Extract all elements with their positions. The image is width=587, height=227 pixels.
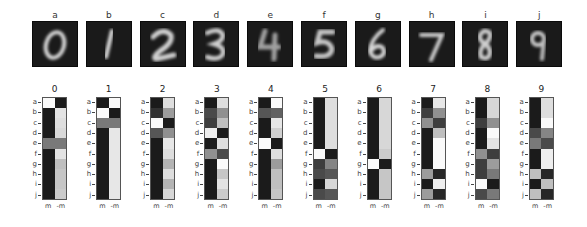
row-tick-label: a <box>404 97 420 107</box>
heatmap-cell <box>325 118 337 128</box>
heatmap-cell <box>379 128 391 138</box>
heatmap-cell <box>314 138 326 148</box>
row-tick-label: h <box>133 169 149 179</box>
row-tick-label: c <box>133 118 149 128</box>
heatmap-cell <box>368 169 380 179</box>
row-tick-label: c <box>187 118 203 128</box>
matrix-title: 5 <box>313 84 338 95</box>
heatmap-cell <box>271 128 283 138</box>
heatmap-cell <box>541 179 553 189</box>
heatmap-cell <box>205 149 217 159</box>
heatmap-cell <box>43 179 55 189</box>
row-tick-label: d <box>25 128 41 138</box>
heatmap-cell <box>55 169 67 179</box>
heatmap-cell <box>205 169 217 179</box>
heatmap-cell <box>97 128 109 138</box>
heatmap-cell <box>379 138 391 148</box>
heatmap-matrix <box>204 97 229 200</box>
heatmap-matrix <box>475 97 500 200</box>
digit-panel-h: h <box>409 10 455 67</box>
digit-panel-b: b <box>86 10 132 67</box>
heatmap-cell <box>325 138 337 148</box>
row-tick-label: h <box>404 169 420 179</box>
heatmap-cell <box>325 179 337 189</box>
column-axis-labels: m-m <box>475 202 500 210</box>
heatmap-cell <box>151 98 163 108</box>
heatmap-cell <box>109 128 121 138</box>
heatmap-cell <box>476 98 488 108</box>
heatmap-cell <box>163 169 175 179</box>
row-tick-label: a <box>187 97 203 107</box>
row-tick-label: i <box>241 179 257 189</box>
heatmap-cell <box>433 189 445 199</box>
row-tick-label: d <box>512 128 528 138</box>
digit-panel-i: i <box>462 10 508 67</box>
row-tick-label: b <box>25 107 41 117</box>
heatmap-cell <box>55 149 67 159</box>
column-axis-labels: m-m <box>313 202 338 210</box>
row-tick-label: c <box>79 118 95 128</box>
row-tick-label: c <box>25 118 41 128</box>
digit-image-9 <box>516 21 562 67</box>
heatmap-cell <box>422 179 434 189</box>
heatmap-cell <box>259 159 271 169</box>
heatmap-cell <box>379 189 391 199</box>
heatmap-cell <box>109 179 121 189</box>
heatmap-cell <box>487 169 499 179</box>
digit-panel-c: c <box>140 10 186 67</box>
heatmap-cell <box>43 149 55 159</box>
digit-panel-label: b <box>86 10 132 21</box>
heatmap-cell <box>97 118 109 128</box>
row-tick-label: e <box>512 138 528 148</box>
row-tick-label: g <box>187 159 203 169</box>
row-tick-label: f <box>296 149 312 159</box>
row-tick-label: c <box>458 118 474 128</box>
heatmap-cell <box>476 159 488 169</box>
column-axis-labels: m-m <box>529 202 554 210</box>
heatmap-cell <box>205 138 217 148</box>
row-tick-label: d <box>350 128 366 138</box>
column-axis-labels: m-m <box>258 202 283 210</box>
heatmap-cell <box>530 128 542 138</box>
heatmap-cell <box>476 138 488 148</box>
heatmap-cell <box>217 138 229 148</box>
row-tick-label: d <box>79 128 95 138</box>
heatmap-cell <box>43 118 55 128</box>
row-tick-label: e <box>25 138 41 148</box>
row-tick-label: e <box>404 138 420 148</box>
row-tick-label: e <box>133 138 149 148</box>
digit-panel-label: e <box>247 10 293 21</box>
heatmap-cell <box>55 189 67 199</box>
heatmap-cell <box>325 189 337 199</box>
column-tick-label: -m <box>325 202 338 210</box>
heatmap-cell <box>205 98 217 108</box>
heatmap-matrix <box>367 97 392 200</box>
row-tick-label: f <box>187 149 203 159</box>
matrix-title: 2 <box>150 84 175 95</box>
row-tick-label: h <box>187 169 203 179</box>
row-tick-label: f <box>458 149 474 159</box>
heatmap-cell <box>55 118 67 128</box>
row-tick-label: i <box>187 179 203 189</box>
digit-panel-g: g <box>355 10 401 67</box>
row-tick-label: d <box>241 128 257 138</box>
heatmap-cell <box>43 138 55 148</box>
heatmap-cell <box>422 118 434 128</box>
heatmap-cell <box>43 169 55 179</box>
heatmap-cell <box>379 159 391 169</box>
heatmap-cell <box>379 98 391 108</box>
digit-panel-label: d <box>193 10 239 21</box>
row-tick-label: h <box>458 169 474 179</box>
heatmap-cell <box>433 118 445 128</box>
heatmap-cell <box>163 159 175 169</box>
heatmap-cell <box>422 128 434 138</box>
heatmap-cell <box>271 138 283 148</box>
heatmap-cell <box>476 179 488 189</box>
heatmap-matrix <box>313 97 338 200</box>
heatmap-cell <box>541 159 553 169</box>
column-tick-label: -m <box>541 202 554 210</box>
digit-image-4 <box>247 21 293 67</box>
heatmap-cell <box>314 149 326 159</box>
heatmap-cell <box>163 149 175 159</box>
digit-image-2 <box>140 21 186 67</box>
